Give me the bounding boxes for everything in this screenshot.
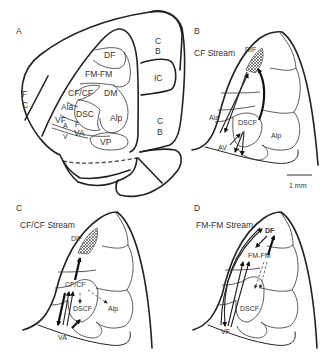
arrow-vf-to-fmfm-2	[231, 262, 249, 327]
region-vp: VP	[100, 137, 112, 147]
cerebrum-outline	[22, 11, 182, 117]
panel-d-letter: D	[194, 203, 200, 213]
panel-c: C CF/CF Stream DIF CF/CF DSCF Alp VA	[16, 203, 152, 348]
dashed-boundary	[63, 158, 137, 163]
lower-lobe-outline	[78, 158, 137, 185]
region-va: VA	[74, 128, 85, 138]
arrow-cfcf-to-dif	[75, 258, 80, 280]
panel-d: D FM-FM Stream DF FM-FM DSCF VF	[193, 203, 317, 348]
region-dif-b: DIF	[245, 46, 256, 53]
panel-a-letter: A	[16, 26, 22, 36]
arrow-dscf-to-dif	[258, 69, 264, 120]
panel-c-title: CF/CF Stream	[20, 220, 75, 230]
region-alp-c: Alp	[108, 305, 118, 313]
cb-top-c: C	[155, 36, 161, 46]
region-dscf-d: DSCF	[240, 305, 259, 312]
fc-label-f: F	[22, 89, 27, 99]
panel-c-letter: C	[16, 203, 22, 213]
fc-line	[25, 76, 48, 120]
region-dsc: DSC	[76, 109, 94, 119]
region-df-d: DF	[265, 227, 275, 234]
scale-bar-label: 1 mm	[289, 182, 307, 189]
arrow-df-to-fmfm	[256, 236, 267, 247]
ic-label: IC	[154, 73, 163, 83]
region-vf-d: VF	[221, 328, 230, 335]
region-dscf-c: DSCF	[73, 305, 92, 312]
region-cf-cf: CF/CF	[68, 88, 93, 98]
panel-a: A F C IC C B C B	[16, 11, 185, 196]
region-f: F	[75, 121, 79, 128]
region-fm-fm: FM-FM	[85, 69, 112, 79]
region-av-b: AV	[218, 144, 227, 151]
region-alp: Alp	[110, 113, 123, 123]
region-ala: Ala	[61, 102, 74, 112]
region-va-c: VA	[58, 334, 67, 341]
region-cfcf-c: CF/CF	[65, 281, 86, 288]
fc-label-c: C	[22, 100, 28, 110]
panel-d-title: FM-FM Stream	[196, 220, 253, 230]
region-v: V	[63, 133, 68, 140]
arrow-va-to-dscf	[72, 320, 80, 328]
region-dif-c: DIF	[71, 235, 82, 242]
panel-b-letter: B	[194, 26, 200, 36]
auditory-cortex-figure: A F C IC C B C B	[0, 0, 334, 362]
arrow-fmfm-to-df	[268, 236, 274, 255]
region-ala-b: Ala	[209, 114, 219, 121]
region-dscf-b: DSCF	[238, 119, 257, 126]
region-alp-b: Alp	[271, 132, 281, 140]
cb-bot-c: C	[157, 116, 163, 126]
cerebellum-outer-outline	[150, 11, 182, 28]
panel-b-title: CF Stream	[194, 48, 235, 58]
region-fmfm-d: FM-FM	[248, 252, 271, 259]
brainstem-outline	[116, 149, 181, 196]
scale-bar: 1 mm	[287, 175, 312, 189]
region-dm: DM	[104, 88, 117, 98]
panel-b: B CF Stream DIF Ala DSCF Alp AV	[192, 26, 318, 165]
arrow-fmfm-to-dscf-dashed	[255, 262, 264, 288]
region-df: DF	[104, 50, 115, 60]
brainstem-line	[138, 158, 162, 183]
region-a: A	[63, 122, 68, 129]
cb-bot-b: B	[157, 127, 163, 137]
cb-top-b: B	[155, 46, 161, 56]
